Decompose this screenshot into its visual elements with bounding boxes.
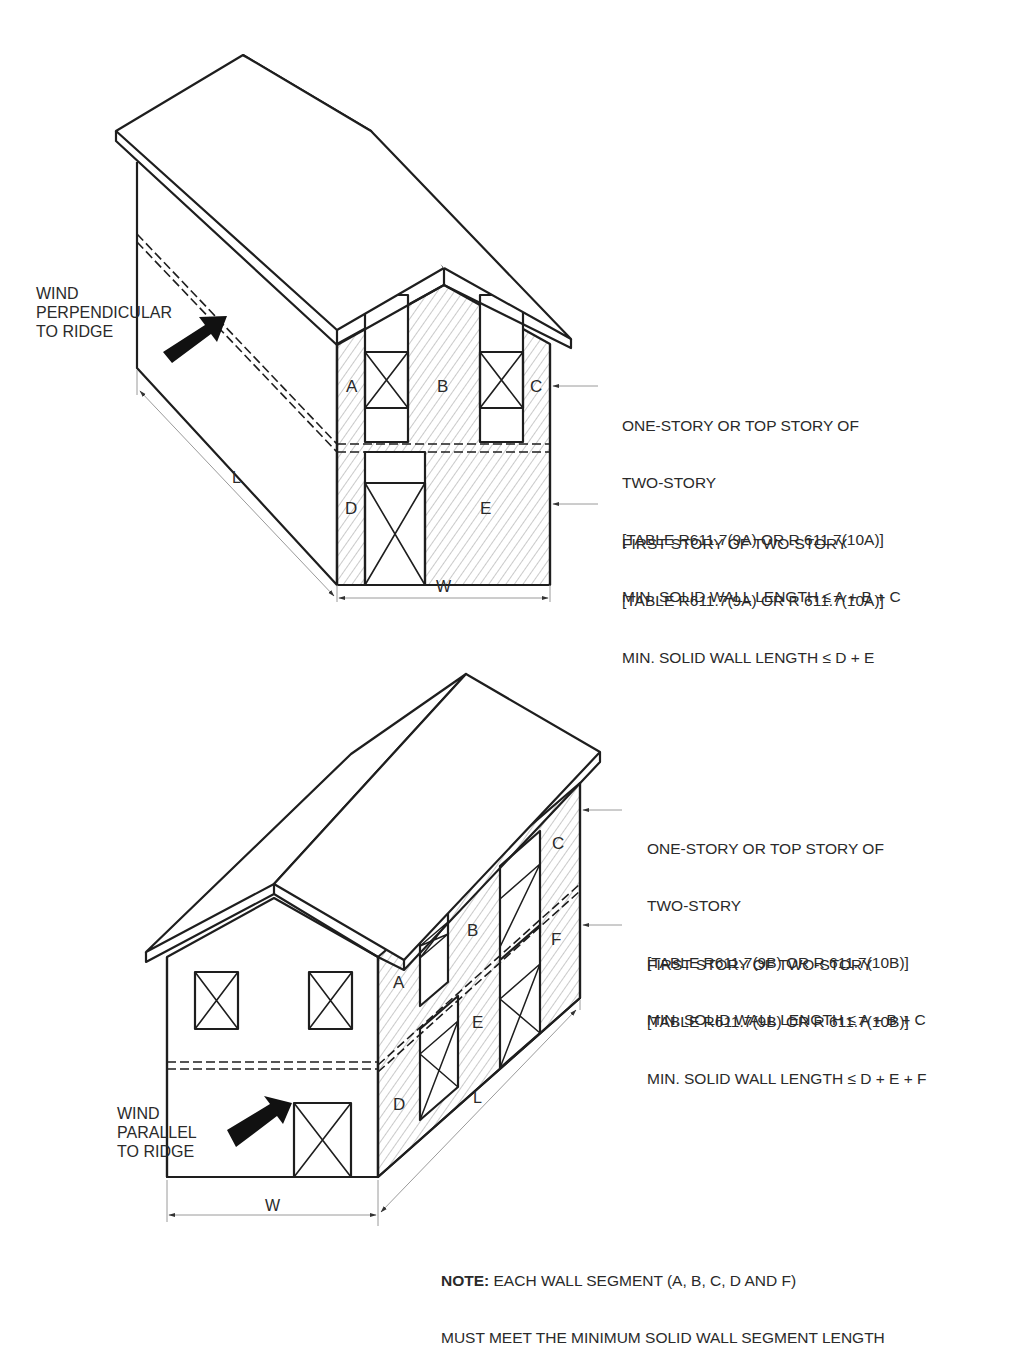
callout-line: [TABLE R611.7(9B) OR R 611.7(10B)]: [647, 1012, 927, 1031]
segment-label-c: C: [530, 377, 542, 396]
note-line: NOTE: EACH WALL SEGMENT (A, B, C, D AND …: [441, 1271, 885, 1290]
note-text: EACH WALL SEGMENT (A, B, C, D AND F): [494, 1272, 797, 1289]
wind-perpendicular-label: WIND PERPENDICULAR TO RIDGE: [36, 284, 172, 341]
callout-first-story-perpendicular: FIRST STORY OF TWO-STORY [TABLE R611.7(9…: [622, 496, 884, 686]
lower-door-opening: [365, 452, 425, 585]
wind-label-line: TO RIDGE: [36, 322, 172, 341]
segment-label-a: A: [393, 973, 405, 992]
wind-label-line: WIND: [117, 1104, 197, 1123]
wind-parallel-label: WIND PARALLEL TO RIDGE: [117, 1104, 197, 1161]
note-block: NOTE: EACH WALL SEGMENT (A, B, C, D AND …: [441, 1233, 885, 1354]
wind-label-line: PERPENDICULAR: [36, 303, 172, 322]
dimension-length-label: L: [232, 469, 241, 486]
callout-line: TWO-STORY: [622, 473, 901, 492]
wind-label-line: WIND: [36, 284, 172, 303]
callout-line: ONE-STORY OR TOP STORY OF: [622, 416, 901, 435]
callout-line: FIRST STORY OF TWO-STORY: [622, 534, 884, 553]
segment-label-a: A: [346, 377, 358, 396]
segment-label-d: D: [345, 499, 357, 518]
segment-label-b: B: [437, 377, 448, 396]
wind-label-line: PARALLEL: [117, 1123, 197, 1142]
segment-label-f: F: [551, 930, 561, 949]
segment-label-c: C: [552, 834, 564, 853]
dimension-width-label: W: [265, 1197, 281, 1214]
segment-label-b: B: [467, 921, 478, 940]
upper-right-opening: [480, 295, 523, 442]
segment-label-d: D: [393, 1095, 405, 1114]
callout-line: TWO-STORY: [647, 896, 926, 915]
figure-1-building: [116, 55, 571, 585]
callout-line: MIN. SOLID WALL LENGTH ≤ D + E + F: [647, 1069, 927, 1088]
dimension-width-label: W: [436, 578, 452, 595]
note-line: MUST MEET THE MINIMUM SOLID WALL SEGMENT…: [441, 1328, 885, 1347]
gable-wall: [167, 898, 378, 1177]
callout-line: MIN. SOLID WALL LENGTH ≤ D + E: [622, 648, 884, 667]
callout-line: FIRST STORY OF TWO-STORY: [647, 955, 927, 974]
callout-first-story-parallel: FIRST STORY OF TWO-STORY [TABLE R611.7(9…: [647, 917, 927, 1107]
wind-label-line: TO RIDGE: [117, 1142, 197, 1161]
segment-label-e: E: [480, 499, 491, 518]
dimension-length-label: L: [473, 1089, 482, 1106]
callout-line: ONE-STORY OR TOP STORY OF: [647, 839, 926, 858]
figure-2-building: [146, 674, 600, 1177]
callout-line: [TABLE R611.7(9A) OR R 611.7(10A)]: [622, 591, 884, 610]
note-label: NOTE:: [441, 1272, 489, 1289]
segment-label-e: E: [472, 1013, 483, 1032]
